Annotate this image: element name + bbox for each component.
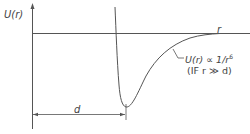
annotation-exponent: 6 <box>229 53 233 60</box>
x-axis-label: r <box>217 25 221 35</box>
y-axis-label-text: U(r) <box>4 9 23 20</box>
annotation-condition: (IF r ≫ d) <box>187 66 232 76</box>
dimension-arrow-right-icon <box>120 113 125 116</box>
y-axis-arrowhead-icon <box>31 3 35 9</box>
dimension-label-d: d <box>74 105 80 115</box>
y-axis-label: U(r) <box>4 10 23 20</box>
annotation-formula: U(r) ∝ 1/r6 <box>185 54 233 65</box>
annotation-leader-line <box>173 49 184 58</box>
dimension-arrow-left-icon <box>33 113 38 116</box>
potential-energy-diagram: U(r) r d U(r) ∝ 1/r6 (IF r ≫ d) <box>0 0 250 134</box>
annotation-formula-text: U(r) ∝ 1/r <box>185 54 229 65</box>
